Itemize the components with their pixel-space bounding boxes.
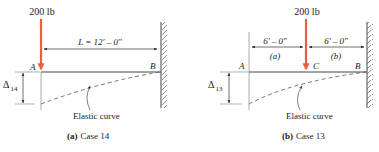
caption-b-prefix: (b) (282, 131, 293, 141)
panel-b-case-13: 200 lb 6' – 0" 6' – 0" (a) (b) A C B Δ13… (208, 6, 373, 141)
point-b-label: B (150, 61, 156, 71)
curve-label: Elastic curve (73, 111, 120, 121)
curve-pointer (87, 86, 90, 110)
point-a-label: A (29, 62, 36, 72)
point-c-label: C (313, 61, 320, 71)
segment-b-label: (b) (331, 51, 342, 61)
span-label-text: L = 12' – 0" (77, 37, 122, 47)
curve-pointer (297, 86, 302, 110)
delta-symbol: Δ13 (208, 79, 223, 93)
caption-b: (b)Case 13 (282, 131, 325, 141)
delta-subscript: 13 (215, 85, 223, 93)
delta-symbol: Δ14 (3, 79, 18, 93)
elastic-curve (41, 72, 160, 104)
caption-a-prefix: (a) (67, 131, 78, 141)
caption-b-text: Case 13 (296, 131, 325, 141)
delta-glyph: Δ (3, 79, 10, 90)
span-label: L = 12' – 0" (77, 37, 122, 47)
load-label: 200 lb (29, 6, 54, 17)
span-right-label: 6' – 0" (324, 36, 348, 46)
elastic-curve (249, 72, 366, 104)
panel-a-case-14: 200 lb L = 12' – 0" A B Δ14 Elastic curv… (3, 6, 167, 141)
curve-label: Elastic curve (286, 111, 333, 121)
caption-a: (a)Case 14 (67, 131, 110, 141)
wall-hatch-icon (367, 22, 373, 108)
point-b-label: B (355, 61, 361, 71)
caption-a-text: Case 14 (81, 131, 110, 141)
point-a-label: A (238, 61, 245, 71)
span-left-label: 6' – 0" (263, 36, 287, 46)
segment-a-label: (a) (270, 51, 281, 61)
load-label: 200 lb (294, 6, 319, 17)
delta-subscript: 14 (10, 85, 18, 93)
beam-deflection-diagram: 200 lb L = 12' – 0" A B Δ14 Elastic curv… (0, 0, 379, 152)
wall-hatch-icon (161, 22, 167, 108)
delta-glyph: Δ (208, 79, 215, 90)
